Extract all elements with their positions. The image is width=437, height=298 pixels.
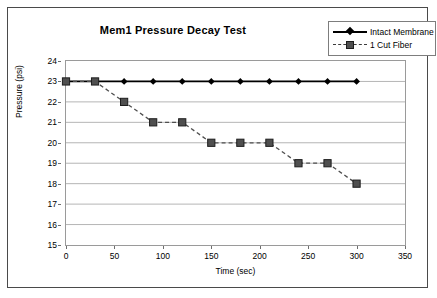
x-tick-mark (260, 246, 261, 249)
data-point-square (266, 139, 273, 146)
y-axis: 15161718192021222324 (38, 60, 61, 246)
y-tick-mark (58, 184, 61, 185)
legend-item-intact-membrane[interactable]: Intact Membrane (333, 25, 431, 38)
x-tick-label: 100 (156, 251, 170, 261)
square-marker-icon (346, 41, 354, 49)
y-tick-label: 18 (48, 179, 57, 189)
x-tick-label: 200 (253, 251, 267, 261)
y-tick-label: 22 (48, 97, 57, 107)
y-tick-label: 24 (48, 56, 57, 66)
y-tick-mark (58, 81, 61, 82)
y-tick-mark (58, 245, 61, 246)
y-tick-label: 20 (48, 138, 57, 148)
legend-key-intact-membrane (333, 26, 367, 37)
x-tick-label: 0 (64, 251, 69, 261)
diamond-marker-icon (346, 27, 354, 35)
plot-area (65, 60, 406, 246)
x-tick-mark (163, 246, 164, 249)
y-tick-label: 17 (48, 199, 57, 209)
data-point-square (324, 160, 331, 167)
chart-title: Mem1 Pressure Decay Test (8, 24, 338, 36)
data-point-diamond (266, 78, 273, 85)
data-point-square (237, 139, 244, 146)
x-tick-label: 50 (110, 251, 119, 261)
data-point-square (62, 78, 69, 85)
data-point-square (353, 180, 360, 187)
data-point-square (208, 139, 215, 146)
x-axis-title: Time (sec) (65, 266, 406, 276)
y-tick-label: 21 (48, 117, 57, 127)
data-point-diamond (179, 78, 186, 85)
y-tick-label: 23 (48, 76, 57, 86)
legend-item-1-cut-fiber[interactable]: 1 Cut Fiber (333, 38, 431, 51)
x-axis: 050100150200250300350 (65, 246, 406, 264)
y-tick-mark (58, 143, 61, 144)
data-point-diamond (353, 78, 360, 85)
y-tick-label: 19 (48, 158, 57, 168)
y-tick-mark (58, 163, 61, 164)
x-tick-mark (308, 246, 309, 249)
x-tick-label: 250 (301, 251, 315, 261)
data-point-square (179, 119, 186, 126)
x-tick-mark (211, 246, 212, 249)
chart-frame: Mem1 Pressure Decay Test Intact Membrane… (7, 7, 428, 288)
data-point-diamond (295, 78, 302, 85)
y-axis-title: Pressure (psi) (14, 65, 24, 118)
x-tick-label: 300 (349, 251, 363, 261)
legend-label-1-cut-fiber: 1 Cut Fiber (370, 40, 412, 50)
x-tick-mark (357, 246, 358, 249)
data-point-square (150, 119, 157, 126)
y-tick-mark (58, 102, 61, 103)
data-point-diamond (324, 78, 331, 85)
x-tick-label: 150 (204, 251, 218, 261)
x-tick-mark (66, 246, 67, 249)
legend-key-1-cut-fiber (333, 39, 367, 50)
legend-label-intact-membrane: Intact Membrane (370, 27, 434, 37)
x-tick-mark (405, 246, 406, 249)
data-point-square (91, 78, 98, 85)
x-tick-label: 350 (398, 251, 412, 261)
data-point-square (295, 160, 302, 167)
y-tick-mark (58, 225, 61, 226)
y-tick-label: 16 (48, 220, 57, 230)
y-tick-mark (58, 204, 61, 205)
plot-svg (66, 61, 405, 245)
y-tick-label: 15 (48, 240, 57, 250)
chart-legend: Intact Membrane 1 Cut Fiber (328, 21, 436, 56)
x-tick-mark (114, 246, 115, 249)
data-point-diamond (121, 78, 128, 85)
data-point-diamond (150, 78, 157, 85)
y-tick-mark (58, 61, 61, 62)
data-point-square (121, 98, 128, 105)
y-tick-mark (58, 122, 61, 123)
data-point-diamond (208, 78, 215, 85)
data-point-diamond (237, 78, 244, 85)
